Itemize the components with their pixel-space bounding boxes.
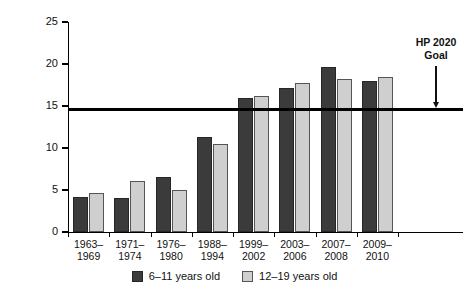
legend-swatch-icon xyxy=(132,271,143,282)
x-label-line1: 1976– xyxy=(157,238,186,250)
x-tick-mark xyxy=(109,232,110,237)
legend-label: 6–11 years old xyxy=(149,270,220,282)
goal-arrow-shaft xyxy=(435,66,436,103)
bar-group xyxy=(238,22,269,232)
x-tick-mark xyxy=(68,232,69,237)
legend-label: 12–19 years old xyxy=(259,270,337,282)
x-label-line2: 2008 xyxy=(324,250,347,262)
legend-item: 6–11 years old xyxy=(132,270,220,282)
x-label-line1: 2003– xyxy=(280,238,309,250)
y-tick-label: 25 xyxy=(16,16,58,27)
x-label-line2: 2002 xyxy=(242,250,265,262)
x-label-line1: 1971– xyxy=(115,238,144,250)
bar-group xyxy=(279,22,310,232)
x-label-line1: 1963– xyxy=(74,238,103,250)
bar-1-2 xyxy=(172,190,187,232)
bar-0-1 xyxy=(114,198,129,232)
goal-label-line1: HP 2020 xyxy=(416,36,457,48)
bar-group xyxy=(73,22,104,232)
bar-group xyxy=(362,22,393,232)
x-tick-mark xyxy=(316,232,317,237)
bar-1-3 xyxy=(213,144,228,232)
chart-legend: 6–11 years old12–19 years old xyxy=(0,270,469,282)
y-tick-label: 0 xyxy=(16,226,58,237)
y-tick-label: 15 xyxy=(16,100,58,111)
legend-item: 12–19 years old xyxy=(242,270,337,282)
bar-1-6 xyxy=(337,79,352,232)
y-tick-label: 10 xyxy=(16,142,58,153)
bar-group xyxy=(114,22,145,232)
plot-area xyxy=(68,22,398,232)
bar-0-3 xyxy=(197,137,212,232)
bar-0-7 xyxy=(362,81,377,232)
x-label-line2: 1969 xyxy=(77,250,100,262)
goal-label-line2: Goal xyxy=(424,49,447,61)
bar-1-0 xyxy=(89,193,104,232)
y-tick-label: 20 xyxy=(16,58,58,69)
obesity-trend-bar-chart: Percent obese 0510152025 1963–19691971–1… xyxy=(0,0,469,298)
bar-0-6 xyxy=(321,67,336,232)
x-tick-mark xyxy=(357,232,358,237)
bar-group xyxy=(156,22,187,232)
x-axis-line xyxy=(68,232,463,233)
x-tick-mark xyxy=(192,232,193,237)
x-label-line2: 2006 xyxy=(283,250,306,262)
x-label-line2: 2010 xyxy=(366,250,389,262)
bar-1-5 xyxy=(295,83,310,232)
x-label-line1: 2007– xyxy=(322,238,351,250)
bar-group xyxy=(321,22,352,232)
x-label-line2: 1994 xyxy=(201,250,224,262)
legend-swatch-icon xyxy=(242,271,253,282)
x-tick-mark xyxy=(398,232,399,237)
hp-2020-goal-label: HP 2020 Goal xyxy=(398,36,469,61)
x-axis-label: 2009–2010 xyxy=(351,238,403,262)
x-label-line1: 1999– xyxy=(239,238,268,250)
bar-group xyxy=(197,22,228,232)
hp-2020-goal-line xyxy=(68,108,463,111)
x-label-line1: 2009– xyxy=(363,238,392,250)
bar-0-4 xyxy=(238,98,253,232)
x-tick-mark xyxy=(274,232,275,237)
y-tick-label: 5 xyxy=(16,184,58,195)
bar-0-2 xyxy=(156,177,171,232)
x-label-line2: 1974 xyxy=(118,250,141,262)
bar-1-1 xyxy=(130,181,145,232)
bar-1-4 xyxy=(254,96,269,232)
bar-0-0 xyxy=(73,197,88,232)
x-label-line1: 1988– xyxy=(198,238,227,250)
bar-1-7 xyxy=(378,77,393,232)
x-tick-mark xyxy=(151,232,152,237)
x-label-line2: 1980 xyxy=(159,250,182,262)
x-tick-mark xyxy=(233,232,234,237)
goal-arrow-head-icon xyxy=(433,102,439,108)
